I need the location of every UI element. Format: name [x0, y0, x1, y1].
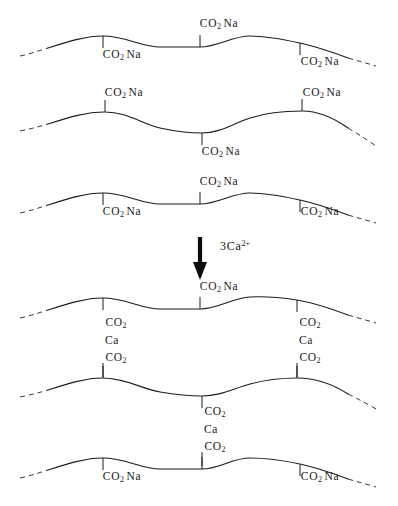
chain-5-right-dash: [348, 394, 376, 409]
polymer-chain-layer: [0, 0, 398, 506]
reaction-arrow-head: [193, 262, 207, 280]
co2-sub: 2: [317, 356, 321, 365]
co2na-o: O: [208, 175, 217, 187]
chain-6-right-dash: [348, 479, 376, 487]
chain-3-label-left: CO2Na: [103, 206, 141, 219]
chain-5-group: [20, 366, 376, 409]
co2na-na: Na: [224, 175, 239, 187]
chain-3-label-right: CO2Na: [301, 206, 339, 219]
chain-5-backbone: [48, 378, 348, 396]
co2na-na: Na: [129, 86, 144, 98]
co2na-sub: 2: [219, 150, 223, 159]
co2na-na: Na: [224, 280, 239, 292]
co2na-sub: 2: [120, 53, 124, 62]
chain-3-right-dash: [348, 215, 376, 223]
co2na-na: Na: [327, 86, 342, 98]
chain-2-label-center: CO2Na: [202, 146, 240, 159]
bridge-left-co2-top: CO2: [105, 317, 126, 330]
co2na-o: O: [111, 48, 120, 60]
chain-2-label-right: CO2Na: [303, 87, 341, 100]
chain-4-left-dash: [20, 310, 48, 318]
co2-sub: 2: [222, 445, 226, 454]
chain-5-left-dash: [20, 390, 48, 397]
chain-6-label-left: CO2Na: [103, 471, 141, 484]
co2na-o: O: [208, 17, 217, 29]
co2na-o: O: [208, 280, 217, 292]
chain-4-backbone: [48, 297, 348, 315]
chain-2-group: [20, 99, 376, 146]
chain-6-left-dash: [20, 470, 48, 478]
co2na-na: Na: [224, 17, 239, 29]
bridge-left-co2-bottom: CO2: [105, 352, 126, 365]
chain-3-label-center: CO2Na: [200, 176, 238, 189]
co2-o: O: [308, 351, 317, 363]
co2na-na: Na: [226, 145, 241, 157]
chain-1-left-dash: [20, 48, 48, 56]
bridge-right-co2-top: CO2: [299, 317, 320, 330]
bridge-right-ca: Ca: [299, 335, 313, 347]
co2na-sub: 2: [217, 22, 221, 31]
reagent-charge: 2+: [241, 239, 250, 248]
chain-2-label-left: CO2Na: [105, 87, 143, 100]
co2na-na: Na: [127, 205, 142, 217]
co2-sub: 2: [123, 321, 127, 330]
co2na-sub: 2: [320, 91, 324, 100]
co2na-sub: 2: [122, 91, 126, 100]
ca-symbol: Ca: [299, 334, 313, 346]
co2na-na: Na: [127, 470, 142, 482]
bridge-center-ca: Ca: [204, 424, 218, 436]
bridge-right-co2-bottom: CO2: [299, 352, 320, 365]
co2na-na: Na: [127, 48, 142, 60]
ca-symbol: Ca: [204, 423, 218, 435]
chain-2-backbone: [48, 111, 348, 133]
reagent-label: 3Ca2+: [220, 240, 250, 252]
chain-2-left-dash: [20, 124, 48, 131]
chain-1-right-dash: [348, 58, 376, 66]
co2-sub: 2: [222, 410, 226, 419]
co2na-o: O: [309, 55, 318, 67]
co2-sub: 2: [317, 321, 321, 330]
co2na-sub: 2: [120, 475, 124, 484]
ca-symbol: Ca: [105, 334, 119, 346]
co2na-o: O: [309, 205, 318, 217]
co2na-o: O: [210, 145, 219, 157]
co2na-sub: 2: [217, 180, 221, 189]
co2-o: O: [213, 405, 222, 417]
chain-1-label-left: CO2Na: [103, 49, 141, 62]
co2-o: O: [308, 316, 317, 328]
reagent-element: Ca: [227, 239, 242, 253]
diagram-root: CO2Na CO2Na CO2Na CO2Na CO2Na CO2Na CO2N…: [0, 0, 398, 506]
co2na-o: O: [311, 86, 320, 98]
co2na-sub: 2: [318, 60, 322, 69]
co2na-sub: 2: [217, 285, 221, 294]
chain-1-label-center: CO2Na: [200, 18, 238, 31]
co2na-sub: 2: [318, 475, 322, 484]
co2na-o: O: [309, 470, 318, 482]
co2na-na: Na: [325, 205, 340, 217]
chain-2-right-dash: [348, 128, 376, 146]
co2na-o: O: [111, 470, 120, 482]
co2-o: O: [114, 316, 123, 328]
chain-4-right-dash: [348, 315, 376, 323]
reagent-count: 3: [220, 239, 227, 253]
chain-4-label-center: CO2Na: [200, 281, 238, 294]
co2na-na: Na: [325, 470, 340, 482]
co2-o: O: [114, 351, 123, 363]
co2na-sub: 2: [318, 210, 322, 219]
bridge-center-co2-top: CO2: [204, 406, 225, 419]
co2-sub: 2: [123, 356, 127, 365]
chain-1-label-right: CO2Na: [301, 56, 339, 69]
chain-4-group: [20, 297, 376, 323]
co2na-sub: 2: [120, 210, 124, 219]
reaction-arrow: [193, 237, 207, 280]
bridge-left-ca: Ca: [105, 335, 119, 347]
bridge-center-co2-bottom: CO2: [204, 441, 225, 454]
co2-o: O: [213, 440, 222, 452]
co2na-o: O: [113, 86, 122, 98]
chain-6-label-right: CO2Na: [301, 471, 339, 484]
co2na-o: O: [111, 205, 120, 217]
chain-3-left-dash: [20, 205, 48, 213]
co2na-na: Na: [325, 55, 340, 67]
